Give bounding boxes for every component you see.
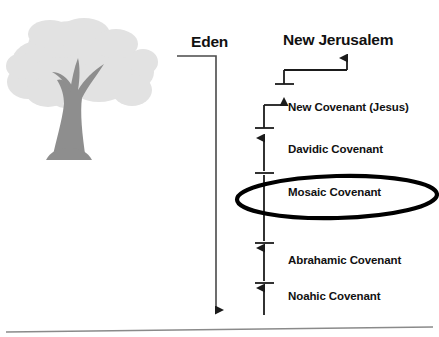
- ground-baseline: [6, 327, 433, 332]
- tree-of-life-icon: [6, 18, 158, 160]
- covenant-label-noahic-covenant: Noahic Covenant: [288, 290, 380, 302]
- covenant-label-new-covenant: New Covenant (Jesus): [288, 101, 409, 113]
- covenant-label-mosaic-covenant: Mosaic Covenant: [288, 186, 381, 198]
- eden-title: Eden: [191, 33, 228, 51]
- new-jerusalem-title: New Jerusalem: [283, 31, 393, 49]
- covenant-label-abrahamic-covenant: Abrahamic Covenant: [288, 254, 401, 266]
- covenant-timeline-diagram: Eden New Jerusalem New Covenant (Jesus) …: [0, 0, 439, 337]
- covenant-label-davidic-covenant: Davidic Covenant: [288, 143, 383, 155]
- eden-axis: [177, 56, 216, 310]
